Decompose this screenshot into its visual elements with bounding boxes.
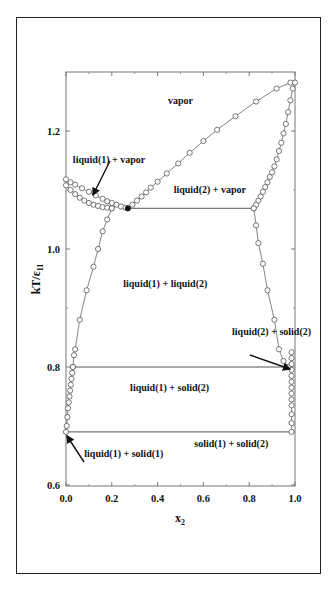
data-point <box>100 229 105 234</box>
data-point <box>281 131 286 136</box>
data-point <box>289 379 294 384</box>
data-point <box>289 367 294 372</box>
data-point <box>144 190 149 195</box>
data-point <box>73 192 78 197</box>
data-point <box>134 198 139 203</box>
data-point <box>84 288 89 293</box>
data-point <box>71 353 76 358</box>
data-point <box>91 264 96 269</box>
x-tick-label: 0.2 <box>105 493 118 504</box>
data-point <box>272 317 277 322</box>
data-point <box>289 373 294 378</box>
data-point <box>79 186 84 191</box>
region-label: liquid(2) + solid(2) <box>232 326 311 338</box>
data-point <box>283 121 288 126</box>
arrow-liquid1-solid1 <box>67 436 84 462</box>
data-point <box>289 420 294 425</box>
region-label: solid(1) + solid(2) <box>194 438 268 450</box>
data-point <box>286 110 291 115</box>
data-point <box>233 114 238 119</box>
data-point <box>253 223 258 228</box>
data-point <box>276 347 281 352</box>
data-point <box>289 361 294 366</box>
data-point <box>65 415 70 420</box>
data-point <box>270 170 275 175</box>
x-tick-label: 0.4 <box>151 493 165 504</box>
data-point <box>155 179 160 184</box>
data-point <box>289 385 294 390</box>
x-tick-label: 0.6 <box>197 493 210 504</box>
data-point <box>86 189 91 194</box>
data-point <box>289 429 294 434</box>
data-point <box>292 80 297 85</box>
data-point <box>288 98 293 103</box>
data-point <box>187 150 192 155</box>
region-label: liquid(1) + solid(2) <box>130 382 209 394</box>
data-point <box>66 400 71 405</box>
data-point <box>63 183 68 188</box>
data-point <box>274 157 279 162</box>
series-line <box>73 208 112 367</box>
data-point <box>95 246 100 251</box>
data-point <box>256 241 261 246</box>
data-point <box>69 376 74 381</box>
data-point <box>276 148 281 153</box>
data-point <box>272 164 277 169</box>
phase-diagram: 0.00.20.40.60.81.00.60.81.01.2 vaporliqu… <box>0 0 336 592</box>
data-point <box>253 99 258 104</box>
data-point <box>130 202 135 207</box>
series-line <box>254 208 288 367</box>
data-point <box>164 171 169 176</box>
x-tick-label: 0.0 <box>59 493 72 504</box>
y-tick-label: 0.8 <box>47 362 60 373</box>
data-point <box>105 217 110 222</box>
arrow-liquid1-vapor <box>93 161 110 195</box>
data-point <box>260 261 265 266</box>
data-point <box>251 206 256 211</box>
x-axis-label: x2 <box>175 511 185 527</box>
data-point <box>148 185 153 190</box>
triple-point-marker <box>125 206 130 211</box>
data-point <box>77 317 82 322</box>
region-label: liquid(1) + vapor <box>73 154 146 166</box>
data-point <box>70 370 75 375</box>
data-point <box>68 388 73 393</box>
data-point <box>139 194 144 199</box>
data-point <box>289 403 294 408</box>
data-point <box>109 206 114 211</box>
region-label: liquid(1) + liquid(2) <box>123 278 207 290</box>
data-point <box>290 86 295 91</box>
data-point <box>201 138 206 143</box>
data-point <box>289 356 294 361</box>
x-tick-label: 0.8 <box>243 493 256 504</box>
data-point <box>274 86 279 91</box>
data-point <box>67 394 72 399</box>
data-point <box>68 187 73 192</box>
data-point <box>289 350 294 355</box>
y-tick-label: 0.6 <box>47 480 60 491</box>
data-point <box>64 423 69 428</box>
region-label: liquid(1) + solid(1) <box>84 448 163 460</box>
region-label: liquid(2) + vapor <box>174 184 247 196</box>
y-axis-label: kT/ε11 <box>29 264 45 295</box>
data-point <box>65 406 70 411</box>
data-point <box>289 412 294 417</box>
data-point <box>289 391 294 396</box>
data-point <box>68 382 73 387</box>
data-point <box>279 140 284 145</box>
data-point <box>73 182 78 187</box>
region-label: vapor <box>168 95 194 106</box>
data-point <box>176 161 181 166</box>
data-point <box>215 127 220 132</box>
region-labels: vaporliquid(1) + vaporliquid(2) + vaporl… <box>73 95 311 459</box>
y-tick-label: 1.0 <box>47 244 60 255</box>
data-point <box>63 429 68 434</box>
x-tick-label: 1.0 <box>288 493 301 504</box>
data-point <box>281 359 286 364</box>
data-point <box>73 347 78 352</box>
y-tick-label: 1.2 <box>47 126 60 137</box>
data-point <box>265 288 270 293</box>
data-point <box>289 397 294 402</box>
data-point <box>265 180 270 185</box>
data-point <box>70 364 75 369</box>
